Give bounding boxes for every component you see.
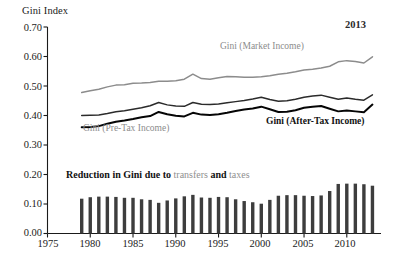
bar-reduction-1979	[80, 199, 83, 234]
bar-reduction-1987	[148, 200, 151, 234]
y-axis-ticks	[44, 27, 48, 234]
series-label-pre-tax-income: Gini (Pre-Tax Income)	[83, 124, 169, 134]
chart-plot-area	[0, 0, 398, 261]
bar-reduction-1995	[217, 197, 220, 234]
bar-reduction-1986	[140, 199, 143, 233]
x-tick-label-1995: 1995	[198, 239, 238, 250]
bars-caption-lead: Reduction in Gini due to	[66, 169, 174, 180]
bar-reduction-1993	[200, 198, 203, 234]
bar-reduction-2005	[302, 196, 305, 234]
bar-reduction-2013	[371, 186, 374, 234]
series-label-after-tax-income: Gini (After-Tax Income)	[266, 117, 365, 127]
y-tick-label-000: 0.00	[8, 228, 42, 239]
bar-reduction-1997	[234, 199, 237, 233]
bar-reduction-2007	[319, 195, 322, 233]
bar-series-reduction	[80, 184, 374, 234]
y-tick-label-020: 0.20	[8, 170, 42, 181]
bar-reduction-1984	[123, 198, 126, 234]
year-annotation-2013: 2013	[345, 20, 366, 31]
bar-reduction-1989	[166, 200, 169, 233]
bar-reduction-1980	[89, 197, 92, 233]
bars-caption: Reduction in Gini due to transfers and t…	[66, 170, 250, 180]
y-tick-label-050: 0.50	[8, 82, 42, 93]
bar-reduction-2012	[362, 184, 365, 233]
x-tick-label-2005: 2005	[283, 239, 323, 250]
bar-reduction-1996	[225, 197, 228, 233]
y-tick-label-060: 0.60	[8, 52, 42, 63]
bar-reduction-2009	[337, 184, 340, 234]
y-tick-label-030: 0.30	[8, 140, 42, 151]
line-gini-market-income	[82, 57, 373, 93]
x-tick-label-1990: 1990	[155, 239, 195, 250]
bar-reduction-2002	[277, 196, 280, 234]
bars-caption-transfers: transfers	[174, 169, 208, 180]
bar-reduction-1998	[242, 201, 245, 233]
bar-reduction-2008	[328, 191, 331, 233]
y-tick-label-010: 0.10	[8, 199, 42, 210]
bar-reduction-1994	[208, 198, 211, 234]
y-axis-title: Gini Index	[22, 6, 68, 17]
bar-reduction-2003	[285, 195, 288, 233]
x-tick-label-2000: 2000	[240, 239, 280, 250]
x-tick-label-1985: 1985	[113, 239, 153, 250]
bars-caption-and: and	[208, 169, 229, 180]
x-tick-label-2010: 2010	[325, 239, 365, 250]
bar-reduction-1981	[97, 197, 100, 234]
bar-reduction-2004	[294, 195, 297, 233]
bar-reduction-2001	[268, 200, 271, 234]
bar-reduction-1991	[183, 196, 186, 233]
gini-index-chart: Gini Index 0.70 0.60 0.50 0.40 0.30 0.20…	[0, 0, 398, 261]
bar-reduction-2011	[354, 184, 357, 234]
bar-reduction-2000	[260, 204, 263, 234]
bar-reduction-1992	[191, 195, 194, 234]
x-tick-label-1980: 1980	[70, 239, 110, 250]
bar-reduction-1988	[157, 203, 160, 234]
x-tick-label-1975: 1975	[28, 239, 68, 250]
bar-reduction-1990	[174, 198, 177, 233]
bar-reduction-1983	[114, 197, 117, 234]
bar-reduction-1985	[131, 198, 134, 234]
y-tick-label-040: 0.40	[8, 111, 42, 122]
bar-reduction-2010	[345, 184, 348, 234]
series-label-market-income: Gini (Market Income)	[220, 42, 304, 52]
bar-reduction-1999	[251, 202, 254, 233]
bar-reduction-2006	[311, 196, 314, 233]
bar-reduction-1982	[106, 197, 109, 234]
y-tick-label-070: 0.70	[8, 23, 42, 34]
bars-caption-taxes: taxes	[229, 169, 250, 180]
x-axis-ticks	[48, 234, 347, 238]
